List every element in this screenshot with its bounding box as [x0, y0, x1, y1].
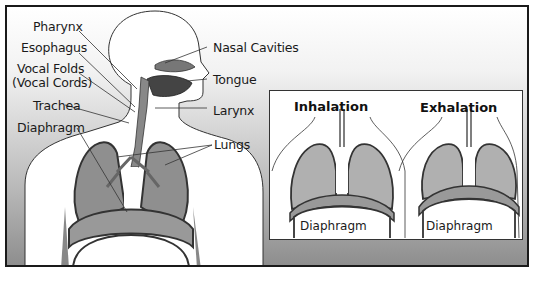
label-diaphragm: Diaphragm — [17, 121, 85, 134]
label-tongue: Tongue — [213, 73, 256, 86]
label-esophagus: Esophagus — [21, 41, 87, 54]
label-larynx: Larynx — [213, 104, 254, 117]
label-lungs: Lungs — [214, 138, 250, 151]
label-trachea: Trachea — [33, 99, 80, 112]
inhalation-title: Inhalation — [294, 99, 368, 114]
figure-frame: Pharynx Esophagus Vocal Folds (Vocal Cor… — [5, 5, 529, 267]
breathing-inset: Inhalation Exhalation Diaphragm Diaphrag… — [269, 90, 523, 240]
label-vocal-cords: (Vocal Cords) — [12, 76, 92, 89]
label-pharynx: Pharynx — [33, 20, 83, 33]
label-vocal-folds: Vocal Folds — [17, 62, 84, 75]
caption-area — [0, 270, 536, 282]
exhalation-diaphragm-label: Diaphragm — [426, 219, 493, 233]
exhalation-title: Exhalation — [420, 100, 497, 115]
label-nasal-cavities: Nasal Cavities — [213, 41, 299, 54]
inhalation-diaphragm-label: Diaphragm — [300, 219, 367, 233]
